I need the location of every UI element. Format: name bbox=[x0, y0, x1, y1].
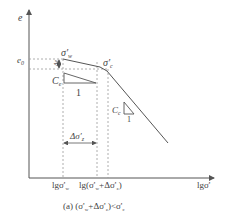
e-lgsigma-diagram: e e0 Δe σ'w σ'c Ce 1 Cc 1 Δσ'z lgσ'w lg(… bbox=[0, 0, 232, 222]
cc-slope-triangle bbox=[124, 102, 134, 114]
ce-slope-triangle bbox=[64, 73, 96, 83]
ce-run-label: 1 bbox=[76, 87, 81, 98]
cc-run-label: 1 bbox=[127, 115, 131, 124]
e0-label: e0 bbox=[17, 55, 24, 66]
ce-label: Ce bbox=[52, 75, 62, 87]
tick-lg-sigma-w-plus-delta: lg(σ'w+Δσ'z) bbox=[79, 180, 122, 191]
sigma-w-label: σ'w bbox=[61, 47, 72, 59]
y-axis-label: e bbox=[18, 12, 23, 23]
guide-lines bbox=[29, 59, 108, 178]
delta-e-label: Δe bbox=[53, 59, 59, 67]
x-axis-label: lgσ' bbox=[197, 180, 211, 190]
diagram-svg: e e0 Δe σ'w σ'c Ce 1 Cc 1 Δσ'z lgσ'w lg(… bbox=[0, 0, 232, 222]
delta-sigma-label: Δσ'z bbox=[69, 131, 85, 142]
cc-label: Cc bbox=[112, 105, 121, 116]
tick-lg-sigma-w: lgσ'w bbox=[52, 180, 69, 191]
sigma-c-label: σ'c bbox=[103, 57, 113, 69]
caption: (a) (σ'w+Δσ'z)<σ'c bbox=[63, 201, 125, 212]
